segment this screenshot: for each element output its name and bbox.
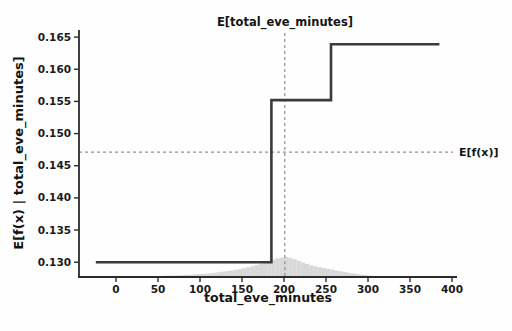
- y-tick-label: 0.135: [38, 224, 71, 236]
- histogram-bar: [238, 269, 242, 277]
- y-tick-label: 0.145: [38, 159, 71, 171]
- x-tick-label: 0: [112, 283, 119, 295]
- x-tick-label: 350: [399, 283, 421, 295]
- y-tick-label: 0.140: [38, 191, 71, 203]
- histogram-bar: [318, 267, 322, 277]
- y-tick-label: 0.130: [38, 256, 71, 268]
- histogram-bar: [255, 265, 259, 277]
- x-axis-label: total_eve_minutes: [204, 292, 332, 305]
- histogram-bar: [246, 267, 250, 277]
- histogram-bar: [322, 268, 326, 277]
- x-tick-label: 50: [151, 283, 166, 295]
- y-axis: 0.1300.1350.1400.1450.1500.1550.1600.165: [38, 30, 79, 278]
- x-tick-label: 300: [357, 283, 379, 295]
- x-tick-label: 400: [441, 283, 463, 295]
- histogram-bar: [276, 258, 280, 277]
- histogram-bar: [326, 269, 330, 277]
- histogram-bar: [334, 270, 338, 277]
- expected-fx-annotation: E[f(x)]: [459, 147, 499, 158]
- expected-x-annotation: E[total_eve_minutes]: [217, 17, 353, 29]
- histogram-bar: [280, 258, 284, 277]
- histogram-bar: [288, 258, 292, 277]
- plot-canvas: 050100150200250300350400 0.1300.1350.140…: [0, 0, 512, 331]
- y-tick-label: 0.150: [38, 127, 71, 139]
- histogram-bar: [234, 270, 238, 277]
- histogram-bar: [330, 270, 334, 277]
- histogram-layer: [154, 257, 385, 277]
- y-tick-label: 0.160: [38, 63, 71, 75]
- y-ticks: 0.1300.1350.1400.1450.1500.1550.1600.165: [38, 31, 79, 268]
- histogram-bar: [309, 265, 313, 277]
- histogram-bar: [305, 264, 309, 277]
- y-tick-label: 0.155: [38, 95, 71, 107]
- histogram-bar: [242, 268, 246, 277]
- histogram-bar: [263, 262, 267, 277]
- histogram-bar: [313, 266, 317, 277]
- histogram-bar: [229, 270, 233, 277]
- y-tick-label: 0.165: [38, 31, 71, 43]
- histogram-bar: [301, 263, 305, 277]
- histogram-bar: [297, 261, 301, 277]
- shap-partial-dependence-figure: 050100150200250300350400 0.1300.1350.140…: [0, 0, 512, 331]
- histogram-bar: [292, 259, 296, 277]
- step-line-path: [96, 44, 440, 262]
- y-axis-label: E[f(x) | total_eve_minutes]: [12, 56, 25, 249]
- histogram-bar: [250, 266, 254, 277]
- histogram-bar: [259, 264, 263, 277]
